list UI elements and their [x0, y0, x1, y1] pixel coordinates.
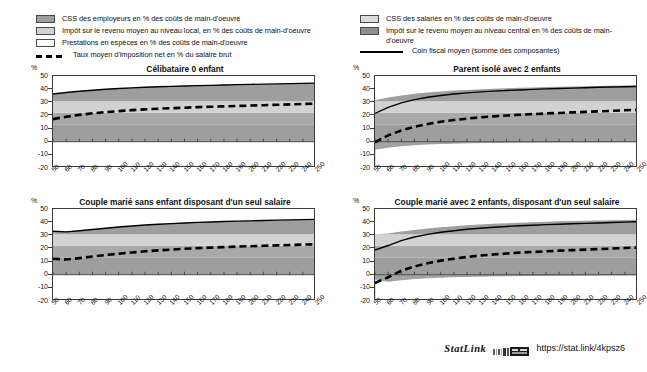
- plot-area: [374, 75, 637, 167]
- legend-item-central-income-tax: Impôt sur le revenu moyen au niveau cent…: [360, 26, 645, 45]
- legend-item-local-income-tax: Impôt sur le revenu moyen au niveau loca…: [36, 26, 336, 37]
- y-tick-label: 0: [26, 270, 48, 277]
- y-tick-label: -10: [348, 150, 370, 157]
- dashed-line-icon: [36, 55, 62, 58]
- y-tick-label: 0: [348, 137, 370, 144]
- y-tick-label: -10: [26, 283, 48, 290]
- employer-ssc-swatch-icon: [36, 15, 55, 23]
- plot-area: [52, 208, 315, 300]
- y-tick-label: 10: [348, 257, 370, 264]
- legend-item-employer-ssc: CSS des employeurs en % des coûts de mai…: [36, 14, 336, 25]
- y-tick-label: 0: [26, 137, 48, 144]
- y-tick-label: 30: [348, 98, 370, 105]
- legend-label-cash-benefits: Prestations en espèces en % des coûts de…: [62, 38, 248, 48]
- x-axis-labels: 5060708090100110120130140150160170180190…: [52, 301, 315, 327]
- y-tick-label: 30: [26, 231, 48, 238]
- y-tick-label: 20: [348, 244, 370, 251]
- x-axis-labels: 5060708090100110120130140150160170180190…: [52, 168, 315, 194]
- y-tick-label: 0: [348, 270, 370, 277]
- legend-item-average-tax-wedge: Coin fiscal moyen (somme des composantes…: [360, 46, 645, 57]
- plot-svg: [375, 209, 637, 300]
- chart-panel-2: %Couple marié sans enfant disposant d'un…: [0, 197, 323, 331]
- area-band: [53, 219, 315, 234]
- legend-column-left: CSS des employeurs en % des coûts de mai…: [36, 14, 336, 62]
- y-tick-label: 50: [348, 205, 370, 212]
- y-tick-label: 40: [26, 218, 48, 225]
- y-tick-label: -10: [26, 150, 48, 157]
- legend-item-net-average-tax-rate: Taux moyen d'imposition net en % du sala…: [36, 50, 336, 61]
- legend-label-central-income-tax: Impôt sur le revenu moyen au niveau cent…: [386, 26, 616, 45]
- legend-label-net-average-tax-rate: Taux moyen d'imposition net en % du sala…: [69, 50, 231, 60]
- central-income-tax-swatch-icon: [360, 27, 379, 35]
- y-tick-label: 10: [348, 124, 370, 131]
- y-tick-label: 20: [26, 244, 48, 251]
- y-tick-label: 30: [348, 231, 370, 238]
- area-band: [53, 101, 315, 113]
- y-tick-label: 30: [26, 98, 48, 105]
- legend-item-cash-benefits: Prestations en espèces en % des coûts de…: [36, 38, 336, 49]
- y-axis-unit-label: %: [353, 64, 359, 71]
- cash-benefits-swatch-icon: [36, 39, 55, 47]
- plot-frame: [52, 75, 315, 167]
- chart-panel-1: %Parent isolé avec 2 enfants50403020100-…: [322, 64, 645, 198]
- plot-frame: [374, 75, 637, 167]
- legend-item-employee-ssc: CSS des salariés en % des coûts de main-…: [360, 14, 645, 25]
- y-tick-label: -20: [26, 164, 48, 171]
- y-axis-unit-label: %: [31, 64, 37, 71]
- panel-title: Célibataire 0 enfant: [52, 65, 318, 74]
- panel-title: Couple marié avec 2 enfants, disposant d…: [374, 198, 640, 207]
- y-tick-label: -10: [348, 283, 370, 290]
- y-tick-label: 50: [26, 205, 48, 212]
- y-tick-label: 40: [26, 85, 48, 92]
- area-band: [53, 234, 315, 246]
- y-tick-label: 20: [26, 111, 48, 118]
- x-axis-labels: 5060708090100110120130140150160170180190…: [374, 168, 637, 194]
- y-tick-label: 40: [348, 218, 370, 225]
- chart-legend: CSS des employeurs en % des coûts de mai…: [0, 14, 647, 66]
- panel-title: Parent isolé avec 2 enfants: [374, 65, 640, 74]
- statlink-wordmark: StatLink: [444, 343, 486, 354]
- y-tick-label: 10: [26, 257, 48, 264]
- plot-svg: [375, 76, 637, 167]
- plot-frame: [52, 208, 315, 300]
- plot-frame: [374, 208, 637, 300]
- legend-column-right: CSS des salariés en % des coûts de main-…: [360, 14, 645, 58]
- plot-area: [52, 75, 315, 167]
- statlink-barcode-icon: [493, 343, 529, 353]
- area-band: [375, 246, 637, 258]
- area-band: [375, 234, 637, 246]
- plot-area: [374, 208, 637, 300]
- chart-panel-3: %Couple marié avec 2 enfants, disposant …: [322, 197, 645, 331]
- legend-label-local-income-tax: Impôt sur le revenu moyen au niveau loca…: [62, 26, 311, 36]
- y-tick-label: -20: [348, 164, 370, 171]
- x-axis-labels: 5060708090100110120130140150160170180190…: [374, 301, 637, 327]
- plot-svg: [53, 76, 315, 167]
- panel-title: Couple marié sans enfant disposant d'un …: [52, 198, 318, 207]
- legend-label-employer-ssc: CSS des employeurs en % des coûts de mai…: [62, 14, 240, 24]
- y-axis-unit-label: %: [31, 197, 37, 204]
- y-tick-label: 40: [348, 85, 370, 92]
- y-axis-unit-label: %: [353, 197, 359, 204]
- local-income-tax-swatch-icon: [36, 27, 55, 35]
- solid-line-icon: [360, 51, 403, 53]
- statlink-row: StatLink https://stat.link/4kpsz6: [0, 340, 647, 356]
- y-tick-label: 50: [348, 72, 370, 79]
- legend-label-employee-ssc: CSS des salariés en % des coûts de main-…: [386, 14, 552, 24]
- y-tick-label: 50: [26, 72, 48, 79]
- plot-svg: [53, 209, 315, 300]
- y-tick-label: -20: [26, 297, 48, 304]
- y-tick-label: 20: [348, 111, 370, 118]
- statlink-url: https://stat.link/4kpsz6: [536, 343, 625, 353]
- legend-label-average-tax-wedge: Coin fiscal moyen (somme des composantes…: [410, 46, 559, 56]
- y-tick-label: -20: [348, 297, 370, 304]
- chart-panel-grid: %Célibataire 0 enfant50403020100-10-2050…: [0, 64, 647, 334]
- chart-panel-0: %Célibataire 0 enfant50403020100-10-2050…: [0, 64, 323, 198]
- figure-root: CSS des employeurs en % des coûts de mai…: [0, 0, 647, 372]
- employee-ssc-swatch-icon: [360, 15, 379, 23]
- y-tick-label: 10: [26, 124, 48, 131]
